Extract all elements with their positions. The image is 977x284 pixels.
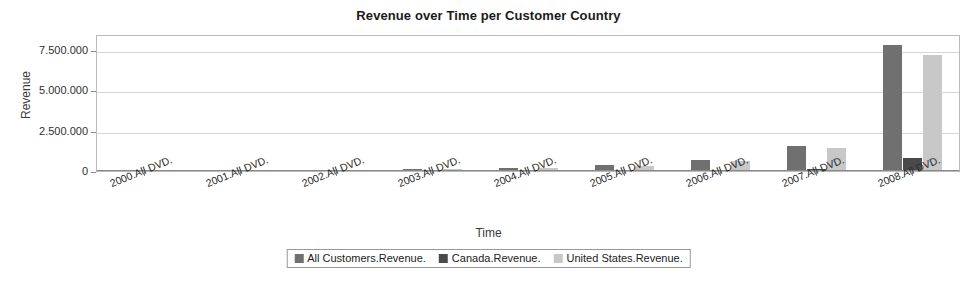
- legend-swatch-icon: [439, 254, 448, 263]
- legend-item-label: United States.Revenue.: [567, 252, 683, 264]
- y-tick-label: 2.500.000: [0, 125, 88, 137]
- chart-title: Revenue over Time per Customer Country: [0, 8, 977, 23]
- y-tick-mark: [91, 91, 96, 92]
- y-tick-mark: [91, 172, 96, 173]
- plot-area: [96, 35, 960, 172]
- y-tick-mark: [91, 132, 96, 133]
- legend-item-label: All Customers.Revenue.: [307, 252, 426, 264]
- gridline: [97, 52, 959, 53]
- bar: [883, 45, 902, 171]
- chart-legend: All Customers.Revenue.Canada.Revenue.Uni…: [286, 249, 690, 268]
- gridline: [97, 92, 959, 93]
- y-tick-mark: [91, 51, 96, 52]
- y-tick-label: 5.000.000: [0, 84, 88, 96]
- legend-item[interactable]: All Customers.Revenue.: [294, 252, 426, 264]
- gridline: [97, 133, 959, 134]
- legend-item[interactable]: United States.Revenue.: [554, 252, 683, 264]
- y-tick-label: 0: [0, 165, 88, 177]
- x-axis-title: Time: [0, 226, 977, 240]
- legend-item-label: Canada.Revenue.: [452, 252, 541, 264]
- legend-swatch-icon: [294, 254, 303, 263]
- legend-item[interactable]: Canada.Revenue.: [439, 252, 541, 264]
- revenue-bar-chart: Revenue over Time per Customer Country R…: [0, 0, 977, 284]
- bar: [923, 55, 942, 171]
- legend-swatch-icon: [554, 254, 563, 263]
- y-tick-label: 7.500.000: [0, 44, 88, 56]
